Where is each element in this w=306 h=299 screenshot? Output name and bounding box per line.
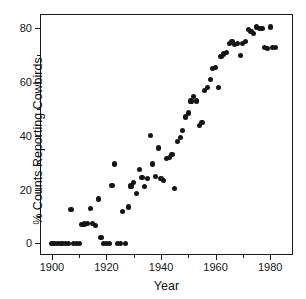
data-point <box>199 120 204 125</box>
data-point <box>150 161 155 166</box>
data-point <box>153 174 158 179</box>
data-point <box>156 145 161 150</box>
data-point <box>134 191 139 196</box>
data-point <box>205 85 210 90</box>
y-tick-major <box>35 243 41 244</box>
data-point <box>216 85 221 90</box>
x-tick-major <box>106 254 107 260</box>
data-point <box>85 221 90 226</box>
data-point <box>172 186 177 191</box>
data-point <box>126 204 131 209</box>
data-point <box>194 98 199 103</box>
data-point <box>259 26 264 31</box>
scatter-plot-figure: 020406080 19001920194019601980 % Counts … <box>0 0 306 299</box>
x-tick-minor <box>134 254 135 258</box>
plot-data-area <box>41 15 292 254</box>
data-point <box>88 206 93 211</box>
x-tick-label: 1920 <box>94 261 118 273</box>
x-tick-label: 1940 <box>149 261 173 273</box>
data-point <box>93 223 98 228</box>
data-point <box>213 65 218 70</box>
data-point <box>96 196 101 201</box>
data-point <box>178 135 183 140</box>
y-axis-title: % Counts Reporting Cowbirds <box>31 41 45 241</box>
data-point <box>268 24 273 29</box>
data-point <box>120 209 125 214</box>
data-point <box>224 50 229 55</box>
x-tick-label: 1980 <box>258 261 282 273</box>
data-point <box>142 184 147 189</box>
x-tick-major <box>161 254 162 260</box>
data-point <box>68 207 73 212</box>
data-point <box>169 152 174 157</box>
data-point <box>139 175 144 180</box>
data-point <box>208 77 213 82</box>
data-point <box>251 31 256 36</box>
data-point <box>161 178 166 183</box>
data-point <box>180 128 185 133</box>
x-tick-major <box>216 254 217 260</box>
data-point <box>148 133 153 138</box>
x-tick-major <box>52 254 53 260</box>
data-point <box>145 176 150 181</box>
data-point <box>109 183 114 188</box>
data-point <box>107 241 112 246</box>
data-point <box>137 167 142 172</box>
x-tick-label: 1900 <box>40 261 64 273</box>
x-tick-major <box>270 254 271 260</box>
y-tick-label: 80 <box>20 22 32 34</box>
data-point <box>273 45 278 50</box>
x-axis-title: Year <box>40 279 293 293</box>
data-point <box>265 46 270 51</box>
data-point <box>66 241 71 246</box>
data-point <box>186 110 191 115</box>
data-point <box>123 241 128 246</box>
plot-frame: 020406080 19001920194019601980 <box>40 14 293 255</box>
x-tick-minor <box>243 254 244 258</box>
x-tick-minor <box>188 254 189 258</box>
x-tick-minor <box>79 254 80 258</box>
x-tick-label: 1960 <box>203 261 227 273</box>
data-point <box>243 39 248 44</box>
data-point <box>235 41 240 46</box>
data-point <box>98 235 103 240</box>
y-tick-major <box>35 28 41 29</box>
data-point <box>188 98 193 103</box>
data-point <box>112 161 117 166</box>
data-point <box>238 53 243 58</box>
data-point <box>77 241 82 246</box>
data-point <box>131 180 136 185</box>
data-point <box>118 241 123 246</box>
